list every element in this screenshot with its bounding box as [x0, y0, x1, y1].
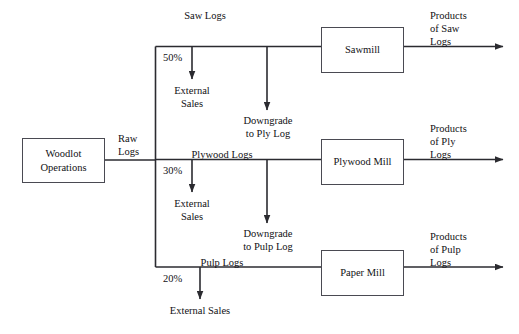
node-woodlot-operations[interactable]: Woodlot Operations: [22, 138, 105, 183]
flow-diagram: Woodlot Operations Sawmill Plywood Mill …: [0, 0, 519, 334]
node-plywood-mill[interactable]: Plywood Mill: [321, 139, 404, 185]
node-paper-mill[interactable]: Paper Mill: [321, 250, 404, 296]
node-sawmill[interactable]: Sawmill: [321, 27, 404, 73]
label-pulp-percent: 20%: [163, 272, 182, 285]
label-products-ply-logs: Products of Ply Logs: [430, 122, 467, 162]
label-plywood-external-sales: External Sales: [174, 197, 210, 223]
label-pulp-external-sales: External Sales: [170, 304, 230, 317]
label-plywood-logs: Plywood Logs: [192, 148, 253, 161]
label-saw-percent: 50%: [163, 51, 182, 64]
node-sawmill-label: Sawmill: [345, 43, 380, 56]
label-pulp-logs: Pulp Logs: [201, 256, 244, 269]
label-products-saw-logs: Products of Saw Logs: [430, 9, 467, 49]
node-paper-mill-label: Paper Mill: [340, 266, 385, 279]
label-plywood-downgrade-pulp: Downgrade to Pulp Log: [243, 227, 293, 253]
label-saw-logs: Saw Logs: [184, 9, 226, 22]
label-products-pulp-logs: Products of Pulp Logs: [430, 230, 467, 270]
label-raw-logs: Raw Logs: [118, 132, 139, 158]
node-plywood-mill-label: Plywood Mill: [333, 155, 391, 168]
label-saw-downgrade-ply: Downgrade to Ply Log: [244, 114, 293, 140]
label-saw-external-sales: External Sales: [174, 84, 210, 110]
label-plywood-percent: 30%: [163, 164, 182, 177]
node-woodlot-operations-label: Woodlot Operations: [23, 147, 104, 174]
